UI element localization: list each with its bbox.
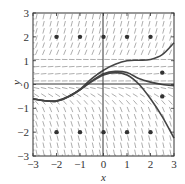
slope-segment — [48, 87, 53, 88]
slope-segment — [127, 28, 129, 33]
equilibrium-dot — [148, 35, 152, 39]
slope-segment — [90, 74, 96, 75]
slope-segment — [50, 128, 52, 133]
slope-segment — [156, 21, 157, 26]
slope-segment — [99, 114, 101, 119]
slope-segment — [36, 121, 38, 126]
slope-segment — [71, 128, 73, 133]
slope-segment — [64, 135, 65, 140]
slope-segment — [64, 43, 66, 48]
slope-segment — [78, 150, 79, 155]
slope-segment — [141, 43, 143, 48]
slope-segment — [78, 114, 80, 119]
slope-segment — [106, 114, 108, 119]
slope-segment — [43, 21, 44, 26]
slope-segment — [71, 35, 73, 40]
slope-segment — [106, 14, 107, 19]
slope-segment — [36, 128, 38, 133]
equilibrium-dot — [148, 130, 152, 134]
slope-segment — [64, 121, 66, 126]
slope-segment — [99, 50, 101, 55]
slope-segment — [41, 94, 46, 97]
slope-segment — [148, 114, 150, 119]
x-tick-label: 0 — [101, 158, 107, 170]
slope-segment — [57, 143, 58, 148]
slope-segment — [132, 74, 138, 75]
slope-segment — [92, 28, 94, 33]
slope-segment — [50, 43, 52, 48]
slope-segment — [156, 128, 158, 133]
slope-segment — [92, 143, 93, 148]
slope-segment — [169, 50, 171, 55]
slope-segment — [71, 107, 73, 112]
slope-segment — [35, 100, 39, 104]
slope-segment — [155, 114, 157, 119]
slope-segment — [132, 87, 137, 88]
slope-segment — [62, 74, 68, 75]
slope-segment — [99, 43, 101, 48]
slope-segment — [92, 121, 94, 126]
slope-segment — [149, 21, 150, 26]
slope-segment — [85, 14, 86, 19]
slope-segment — [91, 94, 96, 97]
slope-segment — [163, 21, 164, 26]
slope-segment — [78, 50, 80, 55]
slope-segment — [155, 100, 159, 104]
x-tick-label: 2 — [148, 158, 154, 170]
slope-segment — [50, 50, 52, 55]
slope-segment — [71, 50, 73, 55]
slope-segment — [106, 143, 107, 148]
slope-segment — [92, 150, 93, 155]
y-tick-label: 1 — [24, 55, 30, 67]
slope-segment — [135, 135, 136, 140]
slope-segment — [57, 114, 59, 119]
slope-segment — [36, 150, 37, 155]
slope-segment — [43, 114, 45, 119]
slope-segment — [118, 87, 123, 88]
slope-segment — [169, 100, 173, 104]
slope-segment — [50, 150, 51, 155]
slope-segment — [57, 107, 59, 112]
slope-segment — [126, 94, 131, 97]
equilibrium-dot — [78, 130, 82, 134]
slope-segment — [155, 43, 157, 48]
slope-segment — [149, 143, 150, 148]
slope-segment — [106, 28, 108, 33]
x-tick-label: −2 — [51, 158, 63, 170]
slope-segment — [134, 43, 136, 48]
slope-segment — [43, 107, 45, 112]
slope-segment — [99, 35, 101, 40]
slope-segment — [140, 100, 144, 104]
slope-segment — [170, 14, 171, 19]
slope-segment — [92, 128, 94, 133]
slope-segment — [92, 35, 94, 40]
y-tick-label: −1 — [17, 102, 29, 114]
slope-segment — [55, 74, 61, 75]
slope-segment — [142, 128, 144, 133]
slope-segment — [156, 150, 157, 155]
slope-segment — [85, 107, 87, 112]
slope-segment — [127, 121, 129, 126]
slope-segment — [85, 28, 87, 33]
slope-segment — [141, 35, 143, 40]
slope-segment — [69, 74, 75, 75]
slope-segment — [43, 121, 45, 126]
slope-segment — [69, 87, 74, 88]
slope-segment — [154, 74, 160, 75]
slope-segment — [133, 94, 138, 97]
slope-segment — [120, 21, 121, 26]
slope-segment — [85, 143, 86, 148]
slope-segment — [57, 43, 59, 48]
slope-segment — [148, 107, 150, 112]
y-tick-label: 0 — [24, 79, 30, 91]
slope-segment — [71, 135, 72, 140]
slope-segment — [43, 128, 45, 133]
slope-segment — [127, 107, 129, 112]
slope-segment — [43, 35, 45, 40]
slope-segment — [64, 150, 65, 155]
slope-segment — [36, 143, 37, 148]
slope-segment — [120, 107, 122, 112]
slope-segment — [84, 94, 89, 97]
slope-segment — [99, 107, 101, 112]
slope-segment — [106, 50, 108, 55]
